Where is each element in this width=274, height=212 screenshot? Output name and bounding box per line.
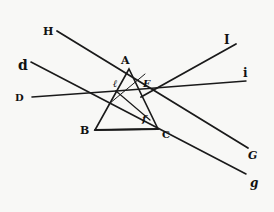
label-H: H	[43, 25, 53, 38]
prism-base-edge	[95, 129, 158, 130]
label-g: g	[250, 176, 258, 190]
prism-refraction-diagram: H d D A B C ℓ F f I i G g	[0, 0, 274, 212]
label-D: D	[15, 92, 24, 103]
label-d: d	[18, 57, 28, 73]
label-G: G	[248, 149, 257, 162]
label-e: ℓ	[113, 78, 117, 89]
ray-f-to-I	[141, 44, 236, 97]
label-i: i	[243, 66, 248, 80]
label-A: A	[120, 54, 130, 67]
diagram-canvas: H d D A B C ℓ F f I i G g	[0, 0, 274, 212]
label-I: I	[224, 33, 230, 47]
label-B: B	[80, 124, 89, 137]
label-C: C	[162, 129, 170, 140]
label-F: F	[142, 78, 151, 89]
ray-D-to-e	[32, 91, 116, 97]
